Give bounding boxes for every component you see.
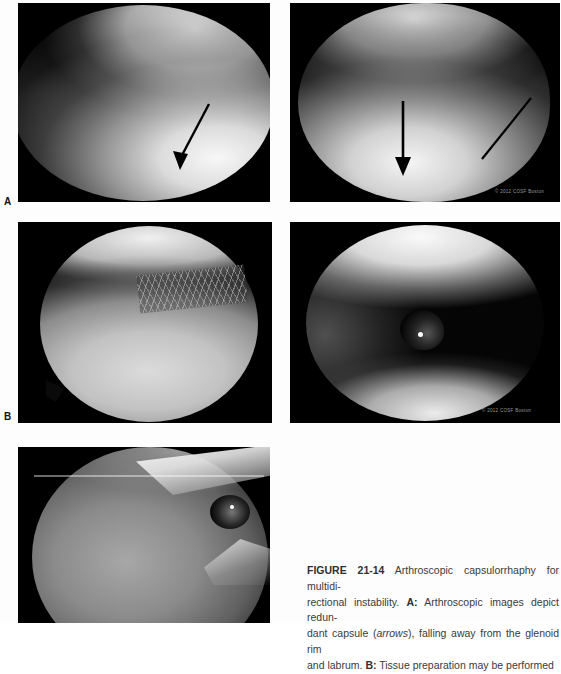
arthroscopy-image-b-right: © 2012 COSF Boston bbox=[290, 222, 560, 423]
scope-view bbox=[18, 222, 272, 423]
arthroscopy-image-c bbox=[18, 447, 270, 623]
arthroscopy-image-b-left bbox=[18, 222, 272, 423]
caption-line: and labrum. B: Tissue preparation may be… bbox=[307, 658, 559, 674]
scope-view bbox=[18, 3, 270, 202]
caption-line: FIGURE 21-14 Arthroscopic capsulorrhaphy… bbox=[307, 563, 559, 595]
caption-segment: FIGURE 21-14 bbox=[307, 564, 384, 576]
arthroscopy-image-a-right: © 2012 COSF Boston bbox=[290, 3, 560, 202]
copyright-notice: © 2012 COSF Boston bbox=[495, 189, 544, 194]
caption-segment: arrows bbox=[376, 627, 408, 639]
caption-segment: and labrum. bbox=[307, 659, 365, 671]
arrow-diagonal-down-right-icon bbox=[168, 101, 214, 173]
endoscopic-field bbox=[18, 5, 270, 201]
endoscopic-field bbox=[40, 226, 258, 422]
caption-line: rectional instability. A: Arthroscopic i… bbox=[307, 595, 559, 627]
panel-label-b: B bbox=[4, 411, 11, 422]
specular-highlight bbox=[230, 505, 234, 509]
caption-segment: A: bbox=[407, 596, 418, 608]
caption-segment: dant capsule ( bbox=[307, 627, 376, 639]
figure-caption: FIGURE 21-14 Arthroscopic capsulorrhaphy… bbox=[307, 563, 559, 674]
copyright-notice: © 2012 COSF Boston bbox=[482, 408, 531, 413]
caption-segment: B: bbox=[365, 659, 376, 671]
surgical-instrument-tip bbox=[210, 495, 250, 529]
scope-view bbox=[18, 447, 270, 623]
scope-view: © 2012 COSF Boston bbox=[290, 3, 560, 202]
specular-highlight bbox=[418, 332, 423, 337]
caption-segment: rectional instability. bbox=[307, 596, 407, 608]
surgical-instrument-tip bbox=[400, 310, 444, 350]
pointer-line-icon bbox=[475, 95, 535, 163]
caption-line: dant capsule (arrows), falling away from… bbox=[307, 626, 559, 658]
panel-label-a: A bbox=[4, 196, 11, 207]
video-scanline bbox=[34, 475, 264, 477]
caption-segment: Tissue preparation may be performed bbox=[376, 659, 553, 671]
arrow-down-icon bbox=[390, 99, 416, 179]
arthroscopy-image-a-left bbox=[18, 3, 270, 202]
scope-view: © 2012 COSF Boston bbox=[290, 222, 560, 423]
